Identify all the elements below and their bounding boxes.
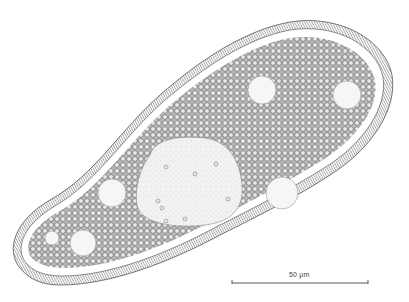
scale-bar-label: 50 μm [289,271,310,278]
protozoan-drawing [0,0,409,302]
scale-bar [232,280,368,284]
cell-illustration: 50 μm [0,0,409,302]
macronucleus [136,137,242,226]
